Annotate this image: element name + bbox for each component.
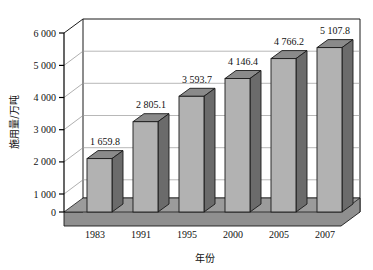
x-tick-labels: 1983 1991 1995 2000 2005 2007 — [85, 229, 335, 240]
value-label-2000: 4 146.4 — [228, 56, 258, 67]
bars — [87, 40, 353, 212]
y-axis-title: 施用量/万吨 — [8, 95, 20, 148]
chart-canvas: 6 000 5 000 4 000 3 000 2 000 1 000 0 施用… — [0, 0, 373, 270]
value-label-1983: 1 659.8 — [90, 136, 120, 147]
y-tick-label: 6 000 — [34, 28, 57, 39]
bar-2000 — [225, 71, 261, 213]
y-tick-label: 5 000 — [34, 60, 57, 71]
bar-1991 — [133, 114, 169, 212]
y-tick-labels: 6 000 5 000 4 000 3 000 2 000 1 000 0 — [34, 28, 57, 218]
bar-1983 — [87, 151, 123, 212]
y-axis-title-group: 施用量/万吨 — [8, 95, 20, 148]
x-axis-title: 年份 — [195, 252, 215, 264]
y-tick-label: 1 000 — [34, 189, 57, 200]
value-label-2007: 5 107.8 — [320, 25, 350, 36]
x-tick-label: 2000 — [223, 229, 243, 240]
y-tick-label: 2 000 — [34, 156, 57, 167]
depth-connectors — [64, 51, 83, 194]
bar-2007 — [317, 40, 353, 212]
bar-2005 — [271, 51, 307, 212]
x-tick-label: 1983 — [85, 229, 105, 240]
x-tick-label: 2007 — [315, 229, 335, 240]
value-label-2005: 4 766.2 — [274, 36, 304, 47]
y-tick-label: 4 000 — [34, 92, 57, 103]
bar-chart-figure: 6 000 5 000 4 000 3 000 2 000 1 000 0 施用… — [0, 0, 373, 270]
bar-1995 — [179, 88, 215, 212]
y-tick-label: 0 — [51, 207, 56, 218]
value-label-1995: 3 593.7 — [182, 74, 212, 85]
y-tick-label: 3 000 — [34, 124, 57, 135]
y-axis — [59, 33, 64, 212]
value-labels: 1 659.8 2 805.1 3 593.7 4 146.4 4 766.2 … — [90, 25, 350, 147]
value-label-1991: 2 805.1 — [136, 99, 166, 110]
x-tick-label: 1995 — [177, 229, 197, 240]
x-tick-label: 1991 — [131, 229, 151, 240]
x-tick-label: 2005 — [269, 229, 289, 240]
